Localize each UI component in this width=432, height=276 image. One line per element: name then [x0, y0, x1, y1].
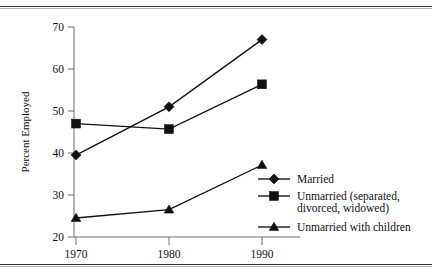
- chart-plot-area: 70 60 50 40 30 20 1970 1980 1990 Percent…: [0, 0, 432, 276]
- bottom-horizontal-rule: [0, 264, 432, 265]
- legend-label-unmarried-with-children: Unmarried with children: [297, 221, 411, 233]
- triangle-marker-1990: [257, 160, 267, 168]
- x-tick-label-1990: 1990: [251, 248, 274, 260]
- diamond-marker-1990: [257, 35, 267, 45]
- y-tick-label-50: 50: [53, 105, 65, 117]
- legend-label-married: Married: [297, 173, 334, 185]
- triangle-marker-1980: [164, 205, 174, 213]
- square-marker-1970: [72, 119, 81, 128]
- triangle-marker-legend: [269, 222, 279, 230]
- x-tick-label-1980: 1980: [158, 248, 181, 260]
- x-tick-label-1970: 1970: [65, 248, 88, 260]
- legend-entry-unmarried-with-children[interactable]: Unmarried with children: [258, 221, 411, 233]
- diamond-marker-1970: [71, 150, 81, 160]
- y-tick-label-40: 40: [53, 147, 65, 159]
- diamond-marker-1980: [164, 102, 174, 112]
- y-axis-title: Percent Employed: [19, 91, 31, 172]
- y-tick-label-20: 20: [53, 231, 65, 243]
- square-marker-1990: [258, 80, 267, 89]
- legend-label-unmarried-sep-div-wid-line2: divorced, widowed): [297, 202, 389, 215]
- bottom-horizontal-rule-shadow: [0, 266, 432, 267]
- diamond-marker-legend: [269, 174, 279, 184]
- y-axis-ticks: [68, 27, 74, 237]
- square-marker-legend: [270, 192, 279, 201]
- line-chart-svg: 70 60 50 40 30 20 1970 1980 1990 Percent…: [0, 0, 432, 276]
- figure-container: 70 60 50 40 30 20 1970 1980 1990 Percent…: [0, 0, 432, 276]
- y-tick-label-70: 70: [53, 21, 65, 33]
- y-tick-label-60: 60: [53, 63, 65, 75]
- legend-entry-unmarried-sep-div-wid[interactable]: Unmarried (separated, divorced, widowed): [258, 190, 400, 215]
- x-axis-ticks: [76, 237, 262, 245]
- square-marker-1980: [165, 125, 174, 134]
- y-tick-label-30: 30: [53, 189, 65, 201]
- legend-entry-married[interactable]: Married: [258, 173, 334, 185]
- chart-legend: Married Unmarried (separated, divorced, …: [258, 173, 411, 233]
